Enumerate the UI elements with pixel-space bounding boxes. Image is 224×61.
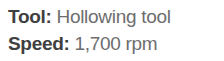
speed-label: Speed: [8,33,70,54]
tool-label: Tool: [8,6,52,27]
tool-info-panel: Tool: Hollowing tool Speed: 1,700 rpm [0,0,224,57]
speed-row: Speed: 1,700 rpm [8,30,224,57]
tool-value: Hollowing tool [57,6,171,27]
tool-row: Tool: Hollowing tool [8,3,224,30]
speed-value: 1,700 rpm [75,33,158,54]
